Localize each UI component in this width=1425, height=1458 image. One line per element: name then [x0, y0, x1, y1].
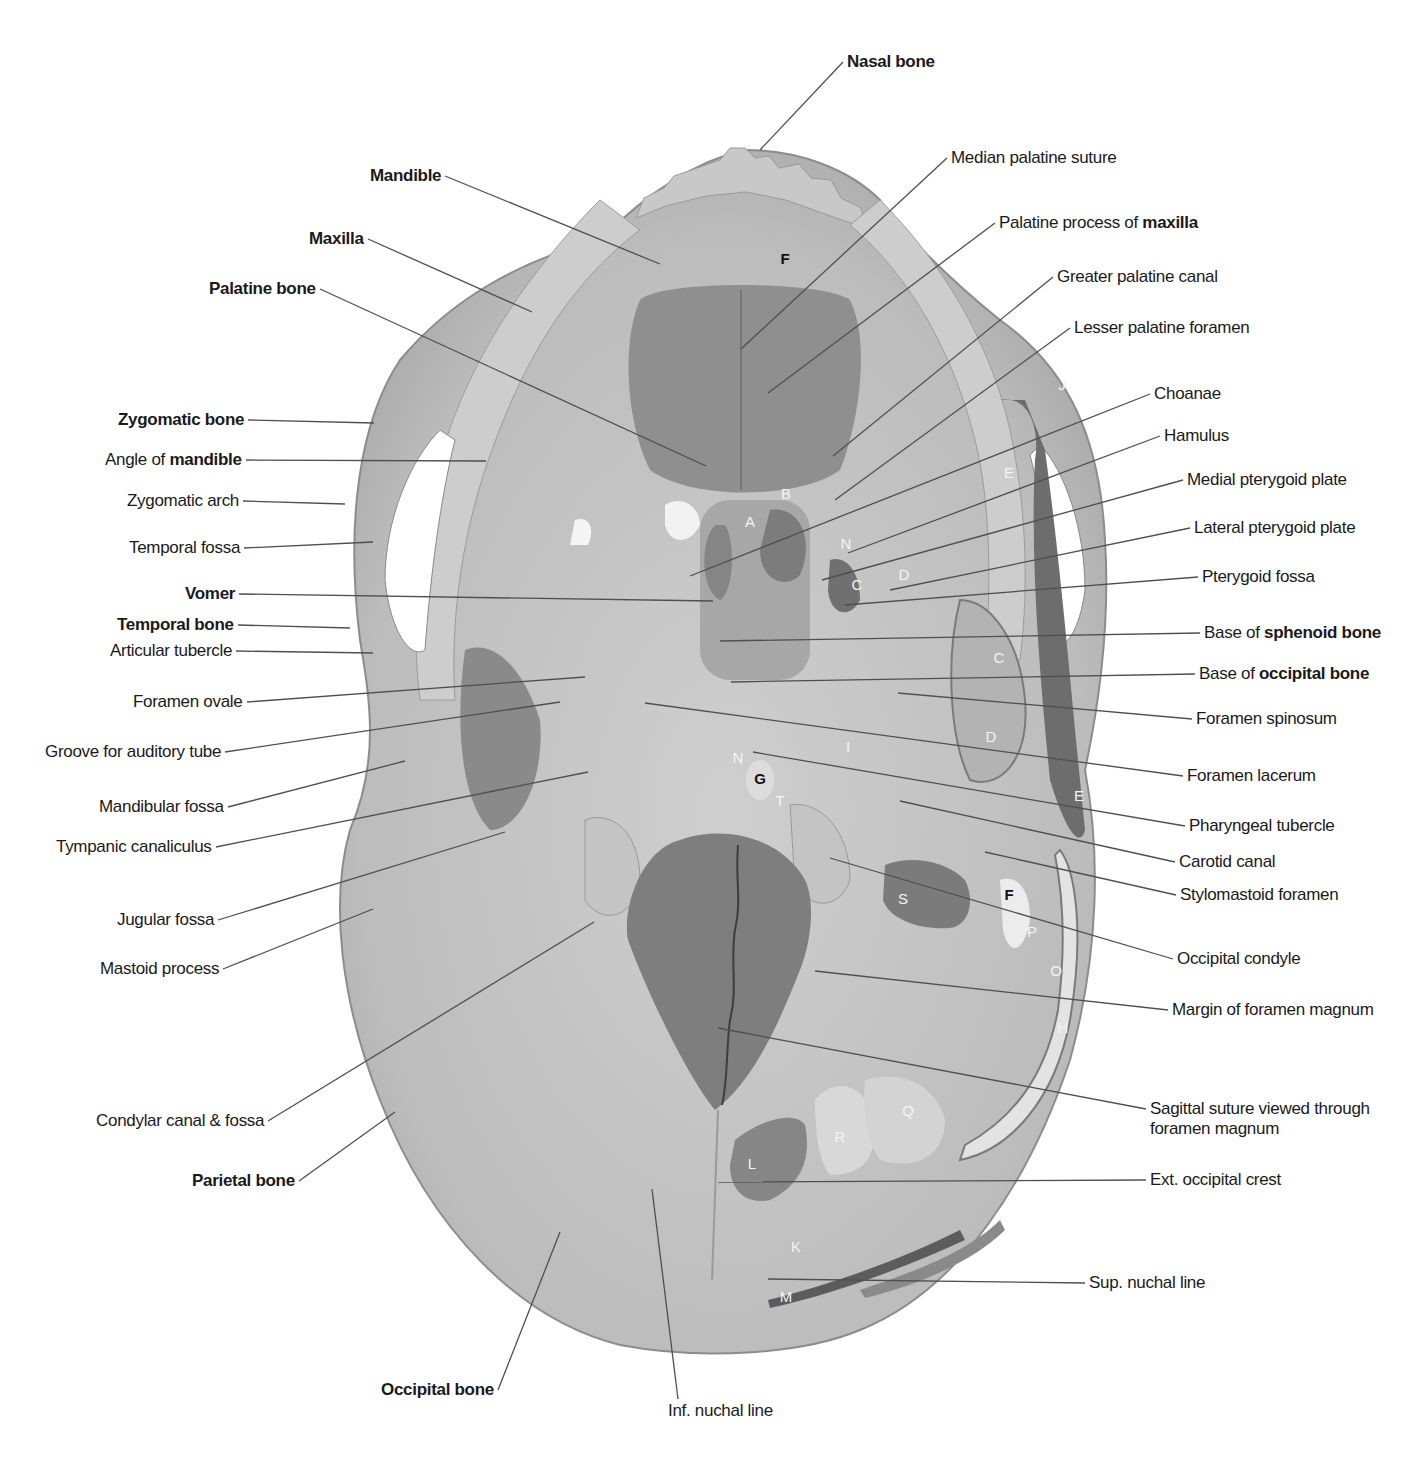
label-text: Stylomastoid foramen	[1180, 885, 1338, 904]
label-vomer: Vomer	[185, 584, 235, 604]
leader-line-nasal-bone	[760, 62, 843, 150]
label-lateral-pterygoid-plate: Lateral pterygoid plate	[1194, 518, 1355, 538]
label-text: Mandibular fossa	[99, 797, 224, 816]
label-text: maxilla	[1142, 213, 1198, 232]
label-text: Maxilla	[309, 229, 364, 248]
leader-line-zygomatic-arch	[243, 501, 345, 504]
region-letter-d: D	[986, 728, 997, 745]
label-text: Nasal bone	[847, 52, 935, 71]
label-medial-pterygoid-plate: Medial pterygoid plate	[1187, 470, 1347, 490]
region-letter-j: J	[1058, 376, 1066, 393]
label-jugular-fossa: Jugular fossa	[117, 910, 214, 930]
label-nasal-bone: Nasal bone	[847, 52, 935, 72]
label-parietal-bone: Parietal bone	[192, 1171, 295, 1191]
label-text: Pterygoid fossa	[1202, 567, 1315, 586]
label-foramen-lacerum: Foramen lacerum	[1187, 766, 1316, 786]
region-letter-e: E	[1074, 787, 1084, 804]
label-text: Hamulus	[1164, 426, 1229, 445]
label-text: Margin of foramen magnum	[1172, 1000, 1374, 1019]
region-letter-f: F	[780, 250, 789, 267]
label-pterygoid-fossa: Pterygoid fossa	[1202, 567, 1315, 587]
region-letter-c: C	[994, 649, 1005, 666]
label-text: Vomer	[185, 584, 235, 603]
label-inf-nuchal-line: Inf. nuchal line	[668, 1401, 773, 1421]
label-text: Greater palatine canal	[1057, 267, 1218, 286]
region-letter-q: Q	[902, 1102, 914, 1119]
label-temporal-bone: Temporal bone	[117, 615, 234, 635]
palate	[629, 285, 861, 493]
label-palatine-process-maxilla: Palatine process of maxilla	[999, 213, 1198, 233]
leader-line-temporal-bone	[238, 625, 350, 628]
label-text: Parietal bone	[192, 1171, 295, 1190]
region-letter-r: R	[835, 1128, 846, 1145]
label-text: Zygomatic arch	[127, 491, 239, 510]
label-text: Condylar canal & fossa	[96, 1111, 264, 1130]
label-foramen-ovale: Foramen ovale	[133, 692, 243, 712]
label-text: Foramen lacerum	[1187, 766, 1316, 785]
label-sup-nuchal-line: Sup. nuchal line	[1089, 1273, 1205, 1293]
label-occipital-bone: Occipital bone	[381, 1380, 494, 1400]
label-lesser-palatine-foramen: Lesser palatine foramen	[1074, 318, 1250, 338]
label-text: occipital bone	[1259, 664, 1369, 683]
region-letter-a: A	[745, 513, 755, 530]
region-letter-e: E	[1004, 464, 1014, 481]
label-base-sphenoid: Base of sphenoid bone	[1204, 623, 1381, 643]
label-text: Occipital bone	[381, 1380, 494, 1399]
label-articular-tubercle: Articular tubercle	[110, 641, 232, 661]
region-letter-i: I	[846, 738, 850, 755]
label-text: Zygomatic bone	[118, 410, 244, 429]
skull-illustration	[0, 0, 1425, 1458]
label-ext-occipital-crest: Ext. occipital crest	[1150, 1170, 1281, 1190]
label-mandible: Mandible	[370, 166, 441, 186]
label-text: Jugular fossa	[117, 910, 214, 929]
label-text: Foramen ovale	[133, 692, 243, 711]
label-sagittal-suture: Sagittal suture viewed throughforamen ma…	[1150, 1099, 1370, 1139]
region-letter-h: H	[1058, 1019, 1069, 1036]
label-median-palatine-suture: Median palatine suture	[951, 148, 1116, 168]
label-text: Carotid canal	[1179, 852, 1275, 871]
label-text: Mastoid process	[100, 959, 219, 978]
region-letter-k: K	[791, 1238, 801, 1255]
skull-inferior-view-diagram: MandibleMaxillaPalatine boneZygomatic bo…	[0, 0, 1425, 1458]
region-letter-f: F	[1004, 886, 1013, 903]
region-letter-c: C	[852, 576, 863, 593]
label-greater-palatine-canal: Greater palatine canal	[1057, 267, 1218, 287]
label-carotid-canal: Carotid canal	[1179, 852, 1275, 872]
region-letter-l: L	[748, 1155, 756, 1172]
label-condylar-canal-fossa: Condylar canal & fossa	[96, 1111, 264, 1131]
label-stylomastoid-foramen: Stylomastoid foramen	[1180, 885, 1338, 905]
region-letter-n: N	[733, 749, 744, 766]
label-occipital-condyle: Occipital condyle	[1177, 949, 1300, 969]
label-zygomatic-arch: Zygomatic arch	[127, 491, 239, 511]
region-letter-b: B	[781, 485, 791, 502]
label-hamulus: Hamulus	[1164, 426, 1229, 446]
label-text: Sagittal suture viewed through	[1150, 1099, 1370, 1118]
label-maxilla: Maxilla	[309, 229, 364, 249]
label-text: Temporal fossa	[129, 538, 240, 557]
label-margin-foramen-magnum: Margin of foramen magnum	[1172, 1000, 1374, 1020]
label-text: Ext. occipital crest	[1150, 1170, 1281, 1189]
label-text: Choanae	[1154, 384, 1221, 403]
region-letter-p: P	[1027, 923, 1037, 940]
leader-line-articular-tubercle	[236, 651, 373, 653]
label-text: Median palatine suture	[951, 148, 1116, 167]
label-text: Base of	[1204, 623, 1264, 642]
label-mandibular-fossa: Mandibular fossa	[99, 797, 224, 817]
label-text: Foramen spinosum	[1196, 709, 1337, 728]
label-text: Sup. nuchal line	[1089, 1273, 1205, 1292]
label-zygomatic-bone: Zygomatic bone	[118, 410, 244, 430]
label-text: Palatine process of	[999, 213, 1142, 232]
label-text: Tympanic canaliculus	[56, 837, 212, 856]
label-text: Inf. nuchal line	[668, 1401, 773, 1420]
label-palatine-bone: Palatine bone	[209, 279, 316, 299]
label-text: Medial pterygoid plate	[1187, 470, 1347, 489]
leader-line-zygomatic-bone	[248, 420, 374, 423]
label-text: mandible	[169, 450, 241, 469]
label-base-occipital: Base of occipital bone	[1199, 664, 1369, 684]
label-text: Pharyngeal tubercle	[1189, 816, 1335, 835]
label-temporal-fossa: Temporal fossa	[129, 538, 240, 558]
label-pharyngeal-tubercle: Pharyngeal tubercle	[1189, 816, 1335, 836]
region-letter-m: M	[780, 1288, 793, 1305]
label-groove-auditory-tube: Groove for auditory tube	[45, 742, 221, 762]
region-letter-o: O	[1050, 962, 1062, 979]
